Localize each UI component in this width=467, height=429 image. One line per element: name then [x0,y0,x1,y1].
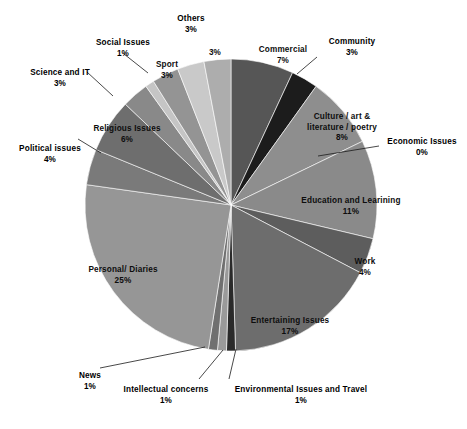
pie-svg-canvas [0,0,467,429]
leader-line-community [297,57,317,74]
pie-chart-figure: Commercial7%Community3%Culture / art & l… [0,0,467,429]
leader-line-social-issues [124,54,148,73]
pie-slice[interactable] [85,185,231,350]
leader-line-science-it [87,72,113,96]
leader-line-intellectual [199,350,223,379]
leader-line-environmental [229,349,236,379]
leader-line-news [100,347,205,368]
